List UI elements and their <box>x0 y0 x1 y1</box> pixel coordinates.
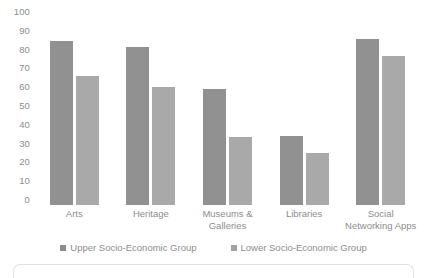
x-axis-label-line: Galleries <box>189 220 266 232</box>
bar-upper-libraries <box>280 136 303 205</box>
y-axis-tick-label: 50 <box>0 101 30 111</box>
figure-frame <box>13 264 414 278</box>
y-axis: 100 90 80 70 60 50 40 30 20 10 0 <box>0 12 34 210</box>
bar-upper-museums-galleries <box>203 89 226 205</box>
x-axis-label-social-networking-apps: Social Networking Apps <box>337 208 424 232</box>
x-axis-label-line: Libraries <box>266 208 343 220</box>
y-axis-tick-label: 60 <box>0 82 30 92</box>
bar-upper-social-networking-apps <box>356 39 379 205</box>
x-axis-label-heritage: Heritage <box>113 208 190 220</box>
plot-area <box>36 12 419 205</box>
bar-lower-social-networking-apps <box>382 56 405 205</box>
y-axis-tick-label: 10 <box>0 176 30 186</box>
x-axis-label-line: Networking Apps <box>337 220 424 232</box>
legend-label: Lower Socio-Economic Group <box>241 242 367 253</box>
y-axis-tick-label: 0 <box>0 195 30 205</box>
x-axis-label-line: Heritage <box>113 208 190 220</box>
bar-lower-museums-galleries <box>229 137 252 205</box>
x-axis-label-line: Social <box>337 208 424 220</box>
y-axis-tick-label: 70 <box>0 63 30 73</box>
x-axis-labels: Arts Heritage Museums & Galleries Librar… <box>36 208 419 242</box>
y-axis-tick-label: 20 <box>0 157 30 167</box>
bar-upper-arts <box>50 41 73 205</box>
y-axis-tick-label: 90 <box>0 26 30 36</box>
y-axis-tick-label: 80 <box>0 45 30 55</box>
bar-lower-arts <box>76 76 99 205</box>
legend-swatch-icon <box>60 245 66 251</box>
bar-upper-heritage <box>126 47 149 205</box>
x-axis-label-line: Museums & <box>189 208 266 220</box>
bar-group-social-networking-apps <box>342 12 419 205</box>
legend-entry-upper[interactable]: Upper Socio-Economic Group <box>60 242 196 253</box>
bar-group-museums-galleries <box>189 12 266 205</box>
bar-group-arts <box>36 12 113 205</box>
y-axis-tick-label: 30 <box>0 139 30 149</box>
bar-group-heritage <box>113 12 190 205</box>
y-axis-tick-label: 100 <box>0 7 30 17</box>
y-axis-tick-label: 40 <box>0 120 30 130</box>
legend-label: Upper Socio-Economic Group <box>70 242 196 253</box>
bar-lower-heritage <box>152 87 175 205</box>
x-axis-label-museums-galleries: Museums & Galleries <box>189 208 266 232</box>
bar-lower-libraries <box>306 153 329 205</box>
x-axis-label-line: Arts <box>36 208 113 220</box>
legend-swatch-icon <box>231 245 237 251</box>
chart-legend: Upper Socio-Economic Group Lower Socio-E… <box>0 242 427 253</box>
bar-group-libraries <box>266 12 343 205</box>
x-axis-label-arts: Arts <box>36 208 113 220</box>
legend-entry-lower[interactable]: Lower Socio-Economic Group <box>231 242 367 253</box>
x-axis-label-libraries: Libraries <box>266 208 343 220</box>
